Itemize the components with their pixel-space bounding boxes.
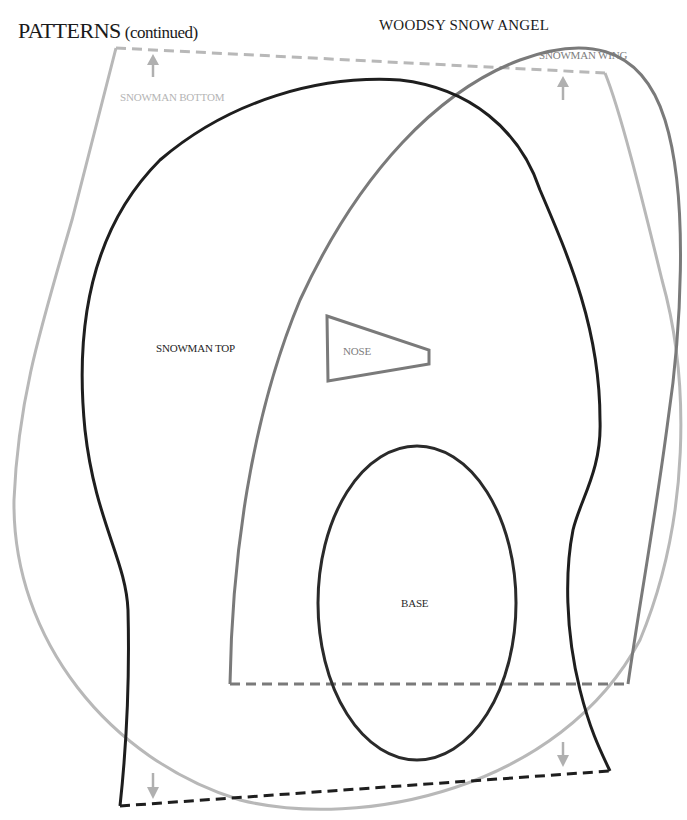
snowman-top-piece xyxy=(82,79,610,806)
snowman-bottom-label: SNOWMAN BOTTOM xyxy=(120,91,224,103)
snowman-wing-piece xyxy=(230,48,680,684)
grain-arrow-icon xyxy=(557,76,569,100)
snowman-top-outline xyxy=(82,79,610,806)
page-title-text: PATTERNS xyxy=(18,18,121,43)
nose-label: NOSE xyxy=(343,345,371,357)
snowman-top-label: SNOWMAN TOP xyxy=(156,342,235,354)
snowman-bottom-fold-line xyxy=(116,48,605,73)
snowman-wing-outline xyxy=(230,48,680,684)
snowman-wing-label: SNOWMAN WING xyxy=(539,49,627,61)
base-label: BASE xyxy=(401,597,428,609)
grain-arrow-icon xyxy=(147,773,159,799)
page-title: PATTERNS(continued) xyxy=(18,18,198,44)
grain-arrow-icon xyxy=(147,54,159,77)
snowman-top-fold-line xyxy=(120,771,610,806)
project-title: WOODSY SNOW ANGEL xyxy=(379,17,549,34)
pattern-canvas xyxy=(0,0,687,820)
page-title-suffix: (continued) xyxy=(125,23,198,42)
grain-arrow-icon xyxy=(557,742,569,767)
